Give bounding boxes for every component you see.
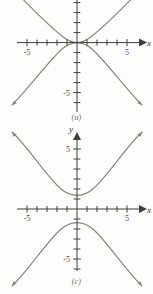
graph-c: 5 -5 -5 5 x y: [0, 126, 153, 294]
x-tick-label-a-neg5: -5: [24, 48, 31, 57]
x-axis-arrowhead-a: [139, 39, 147, 47]
graph-c-canvas: 5 -5 -5 5 x y: [0, 126, 153, 294]
graph-a: -5 5 -5 x: [0, 0, 153, 118]
x-axis-label-a: x: [146, 38, 151, 48]
y-tick-label-c-neg5: -5: [63, 255, 70, 264]
y-axis-arrowhead-c: [73, 132, 81, 140]
x-tick-label-c-neg5: -5: [24, 214, 31, 223]
figure-panel: -5 5 -5 x (a): [0, 0, 153, 294]
y-axis-label-c: y: [68, 126, 73, 134]
x-axis-arrowhead-c: [139, 205, 147, 213]
caption-a: (a): [0, 113, 153, 122]
x-tick-label-a-pos5: 5: [125, 48, 129, 57]
x-tick-label-c-pos5: 5: [125, 214, 129, 223]
graph-a-canvas: -5 5 -5 x: [0, 0, 153, 118]
x-axis-label-c: x: [146, 205, 151, 215]
y-tick-label-a-neg5: -5: [63, 89, 70, 98]
y-tick-label-c-pos5: 5: [66, 145, 70, 154]
caption-c: (c): [0, 277, 153, 286]
